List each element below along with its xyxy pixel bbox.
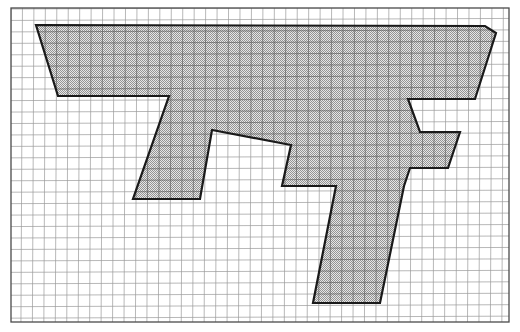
graph-paper-figure xyxy=(0,0,520,332)
figure-page xyxy=(0,0,520,332)
